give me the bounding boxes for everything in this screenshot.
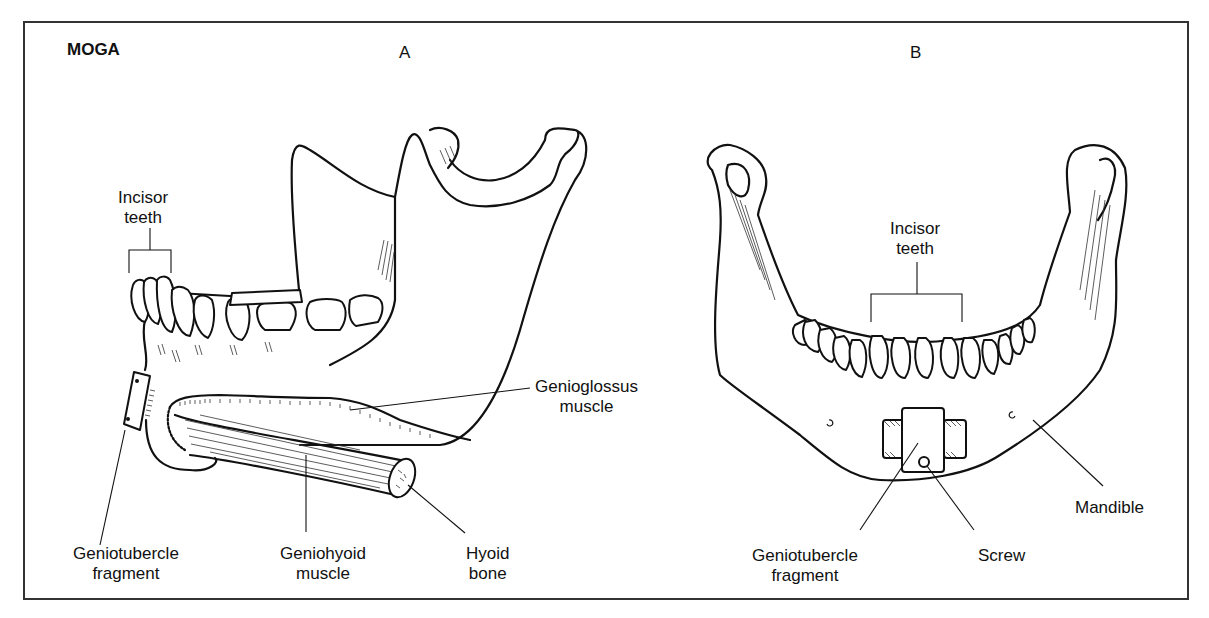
incisor-bracket-a xyxy=(129,228,171,273)
label-line: bone xyxy=(466,564,509,584)
label-line: teeth xyxy=(118,208,168,228)
incisor-bracket-b xyxy=(871,262,962,322)
label-line: Geniotubercle xyxy=(73,544,179,564)
genioglossus-muscle xyxy=(168,395,470,450)
incisor-and-molar-teeth-lateral xyxy=(131,277,382,340)
geniotubercle-fragment-a xyxy=(124,372,216,470)
leader-screw xyxy=(927,466,974,530)
label-line: teeth xyxy=(890,239,940,259)
leader-geniotubercle-a xyxy=(100,430,125,545)
label-geniohyoid-muscle: Geniohyoid muscle xyxy=(280,544,366,584)
label-geniotubercle-fragment-b: Geniotubercle fragment xyxy=(752,546,858,586)
geniohyoid-muscle xyxy=(175,415,410,495)
panel-b-mandible-frontal xyxy=(708,145,1127,530)
label-hyoid-bone: Hyoid bone xyxy=(466,544,509,584)
label-mandible: Mandible xyxy=(1075,498,1144,518)
label-line: muscle xyxy=(280,564,366,584)
label-line: Geniohyoid xyxy=(280,544,366,564)
label-line: muscle xyxy=(535,397,638,417)
leader-genioglossus xyxy=(350,388,530,410)
label-line: Incisor xyxy=(890,219,940,239)
label-line: Genioglossus xyxy=(535,377,638,397)
label-geniotubercle-fragment-a: Geniotubercle fragment xyxy=(73,544,179,584)
label-genioglossus-muscle: Genioglossus muscle xyxy=(535,377,638,417)
label-incisor-teeth-a: Incisor teeth xyxy=(118,188,168,228)
leader-hyoid xyxy=(408,485,465,533)
label-line: fragment xyxy=(752,566,858,586)
geniotubercle-fragment-b xyxy=(883,408,966,472)
label-line: Mandible xyxy=(1075,498,1144,518)
diagram-artwork xyxy=(0,0,1209,618)
label-line: Incisor xyxy=(118,188,168,208)
screw-hole-left xyxy=(827,420,833,426)
leader-mandible xyxy=(1033,420,1103,486)
label-incisor-teeth-b: Incisor teeth xyxy=(890,219,940,259)
label-line: Screw xyxy=(978,546,1025,566)
label-line: Hyoid xyxy=(466,544,509,564)
label-line: fragment xyxy=(73,564,179,584)
screw-hole-right xyxy=(1009,412,1015,418)
label-screw: Screw xyxy=(978,546,1025,566)
label-line: Geniotubercle xyxy=(752,546,858,566)
panel-a-mandible-lateral xyxy=(100,128,586,545)
screw-icon xyxy=(919,457,929,467)
